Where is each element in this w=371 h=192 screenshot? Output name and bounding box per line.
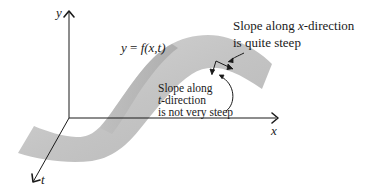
annotation-x-line1: Slope along x-direction	[233, 18, 355, 33]
t-slope-arrowhead	[210, 69, 215, 75]
surface-diagram: y x t y = f(x,t) Slope along x-direction…	[0, 0, 371, 192]
y-axis-label: y	[54, 5, 62, 20]
annotation-x-line2: is quite steep	[233, 35, 301, 50]
annotation-t-line3: is not very steep	[158, 106, 233, 119]
function-label-eq: =	[127, 40, 141, 55]
t-axis-arrowhead	[32, 174, 40, 182]
function-label: y = f(x,t)	[119, 40, 166, 55]
annotation-t-line2: t-direction	[158, 94, 206, 106]
t-axis-label: t	[41, 172, 45, 187]
x-axis-label: x	[270, 123, 277, 138]
function-label-args: (x,t)	[144, 40, 165, 55]
annotation-t-direction: Slope along t-direction is not very stee…	[158, 75, 233, 119]
